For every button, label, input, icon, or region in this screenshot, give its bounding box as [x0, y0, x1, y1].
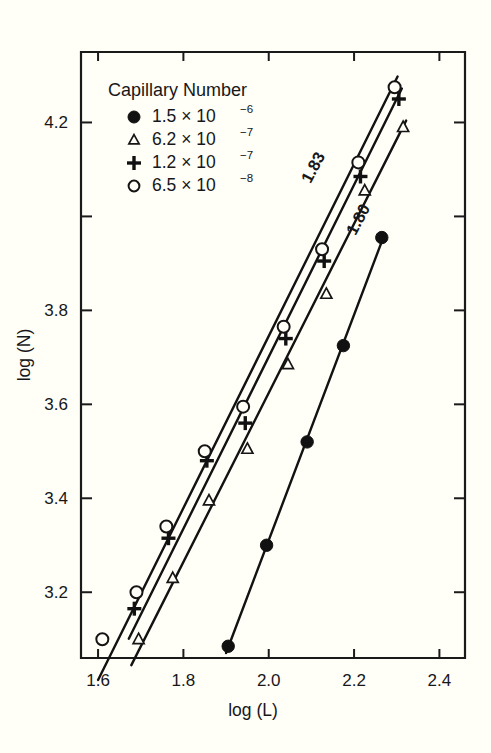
y-tick-label: 4.2	[44, 113, 68, 132]
data-point-filled-circle	[260, 539, 272, 551]
legend-label: 6.2 × 10	[152, 129, 216, 149]
data-point-open-circle	[199, 445, 211, 457]
x-tick-label: 2.4	[428, 671, 452, 690]
data-point-filled-circle	[337, 339, 349, 351]
data-point-open-triangle	[398, 121, 409, 131]
legend-marker-open-triangle	[129, 135, 139, 144]
fit-line	[131, 121, 406, 666]
x-tick-label: 2.2	[342, 671, 366, 690]
y-axis-label: log (N)	[14, 329, 34, 382]
data-point-open-circle	[352, 156, 364, 168]
legend-label: 1.2 × 10	[152, 152, 216, 172]
x-axis-label: log (L)	[228, 700, 278, 720]
legend: Capillary Number1.5 × 10−66.2 × 10−71.2 …	[108, 80, 253, 195]
slope-label-lower: 1.80	[342, 201, 373, 238]
legend-item: 1.2 × 10−7	[127, 149, 253, 172]
slope-label-upper: 1.83	[297, 149, 328, 186]
legend-label: 1.5 × 10	[152, 106, 216, 126]
legend-item: 6.5 × 10−8	[129, 172, 254, 195]
data-point-open-triangle	[203, 495, 214, 505]
legend-item: 6.2 × 10−7	[129, 126, 253, 149]
data-point-open-circle	[96, 633, 108, 645]
x-tick-label: 2.0	[257, 671, 281, 690]
data-point-open-circle	[389, 81, 401, 93]
data-point-filled-circle	[222, 640, 234, 652]
legend-exponent: −8	[240, 172, 253, 184]
y-tick-label: 3.8	[44, 301, 68, 320]
data-point-open-circle	[130, 586, 142, 598]
y-tick-label: 3.6	[44, 395, 68, 414]
y-tick-label: 3.2	[44, 583, 68, 602]
data-point-open-circle	[237, 401, 249, 413]
legend-exponent: −7	[240, 149, 253, 161]
legend-exponent: −6	[240, 103, 253, 115]
legend-label: 6.5 × 10	[152, 175, 216, 195]
data-point-open-triangle	[133, 633, 144, 643]
data-point-open-triangle	[321, 288, 332, 298]
data-point-open-triangle	[359, 185, 370, 195]
x-tick-label: 1.8	[172, 671, 196, 690]
legend-title: Capillary Number	[108, 80, 247, 100]
legend-item: 1.5 × 10−6	[128, 103, 253, 126]
fit-line	[98, 76, 398, 679]
figure-page: 1.61.82.02.22.43.23.43.63.84.2log (L)log…	[0, 0, 491, 753]
data-point-open-circle	[278, 321, 290, 333]
y-tick-label: 3.4	[44, 489, 68, 508]
data-point-filled-circle	[376, 231, 388, 243]
scatter-plot: 1.61.82.02.22.43.23.43.63.84.2log (L)log…	[0, 0, 491, 753]
legend-marker-open-circle	[129, 181, 140, 192]
data-point-filled-circle	[301, 436, 313, 448]
legend-marker-filled-circle	[128, 111, 140, 123]
data-point-open-circle	[316, 243, 328, 255]
data-point-open-circle	[160, 520, 172, 532]
legend-exponent: −7	[240, 126, 253, 138]
